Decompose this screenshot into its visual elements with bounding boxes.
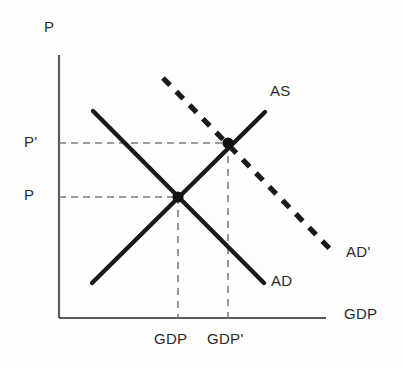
as-ad-diagram: P GDP P' P GDP GDP' AS AD AD' [0, 0, 403, 368]
ad-curve-label: AD [271, 272, 292, 289]
y-tick-label-p: P [24, 186, 34, 203]
x-tick-label-gdp: GDP [154, 330, 187, 347]
x-axis-label: GDP [344, 305, 377, 322]
initial-equilibrium-point [172, 191, 183, 202]
chart-canvas [0, 0, 403, 368]
new-equilibrium-point [222, 137, 233, 148]
ad-prime-curve-label: AD' [346, 243, 371, 260]
ad-prime-curve [163, 78, 331, 250]
y-axis-label: P [44, 18, 54, 35]
as-curve-label: AS [270, 82, 291, 99]
y-tick-label-p-prime: P' [24, 133, 37, 150]
x-tick-label-gdp-prime: GDP' [207, 330, 244, 347]
